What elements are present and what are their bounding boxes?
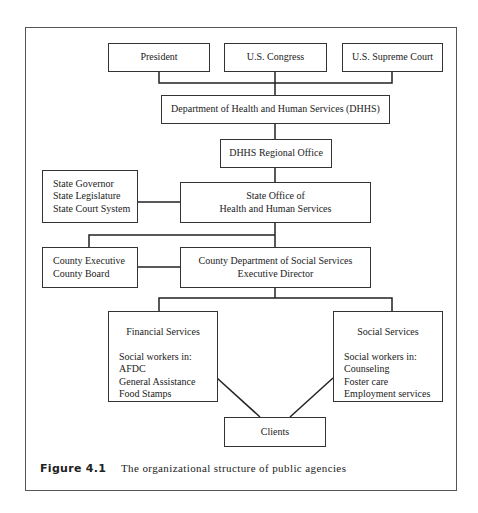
node-label: U.S. Congress xyxy=(247,51,305,64)
node-label: General Assistance xyxy=(119,376,195,389)
node-us-supreme-court: U.S. Supreme Court xyxy=(342,43,443,72)
node-county-dept-social-services: County Department of Social Services Exe… xyxy=(180,247,371,288)
node-label: President xyxy=(140,51,177,64)
node-label: Health and Human Services xyxy=(220,203,332,216)
node-label: Food Stamps xyxy=(119,388,195,401)
node-label: State Legislature xyxy=(53,190,120,203)
node-label: DHHS Regional Office xyxy=(229,147,323,160)
node-label: Counseling xyxy=(344,363,430,376)
node-label: State Governor xyxy=(53,178,114,191)
node-label: State Court System xyxy=(53,203,130,216)
node-us-congress: U.S. Congress xyxy=(224,43,327,72)
node-label: Clients xyxy=(261,426,289,439)
node-label: Social workers in: xyxy=(119,351,195,364)
node-label: County Board xyxy=(53,268,109,281)
node-label: AFDC xyxy=(119,363,195,376)
node-clients: Clients xyxy=(224,417,326,447)
node-label: Social workers in: xyxy=(344,351,430,364)
node-label: Employment services xyxy=(344,388,430,401)
node-label: Foster care xyxy=(344,376,430,389)
node-state-office-hhs: State Office of Health and Human Service… xyxy=(180,182,371,223)
node-label: Executive Director xyxy=(238,268,314,281)
node-dhhs-regional-office: DHHS Regional Office xyxy=(220,139,332,168)
node-dhhs: Department of Health and Human Services … xyxy=(161,95,390,124)
figure-caption: Figure 4.1 The organizational structure … xyxy=(40,462,346,475)
node-title: Social Services xyxy=(357,326,418,339)
node-state-government: State Governor State Legislature State C… xyxy=(42,170,138,223)
node-president: President xyxy=(108,43,210,72)
node-label: County Department of Social Services xyxy=(199,255,353,268)
node-label: U.S. Supreme Court xyxy=(352,51,433,64)
figure-number: Figure 4.1 xyxy=(40,462,106,475)
node-label: County Executive xyxy=(53,255,125,268)
node-financial-services: Financial Services Social workers in: AF… xyxy=(108,311,218,402)
node-county-executive: County Executive County Board xyxy=(42,247,138,288)
node-label: State Office of xyxy=(246,190,305,203)
node-title: Financial Services xyxy=(126,326,200,339)
node-social-services: Social Services Social workers in: Couns… xyxy=(333,311,443,402)
node-label: Department of Health and Human Services … xyxy=(171,103,380,116)
figure-caption-text: The organizational structure of public a… xyxy=(121,462,346,474)
